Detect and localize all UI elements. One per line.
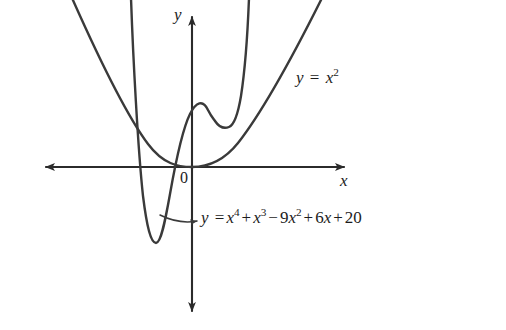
- quartic-term-3-exponent: 2: [296, 206, 302, 218]
- quartic-term-3-sign: −: [266, 208, 280, 227]
- quartic-term-1-variable: x: [226, 208, 234, 227]
- function-graph-figure: y x 0 y = x2 y =x4+x3−9x2+6x+20: [0, 0, 506, 330]
- quartic-term-3-variable: x: [288, 208, 296, 227]
- parabola-exponent: 2: [333, 66, 339, 78]
- curve-quartic: [131, 0, 249, 243]
- equation-label-quartic: y =x4+x3−9x2+6x+20: [201, 209, 362, 226]
- quartic-term-2-variable: x: [253, 208, 261, 227]
- quartic-term-5-coefficient: 20: [345, 208, 362, 227]
- graph-canvas: [0, 0, 506, 330]
- quartic-term-2-sign: +: [240, 208, 254, 227]
- quartic-term-4-coefficient: 6: [315, 208, 324, 227]
- quartic-term-5-sign: +: [331, 208, 345, 227]
- quartic-lhs: y: [201, 208, 209, 227]
- parabola-lhs: y: [296, 68, 304, 87]
- y-axis-label: y: [174, 6, 182, 23]
- quartic-term-1-exponent: 4: [234, 206, 240, 218]
- quartic-term-4-sign: +: [302, 208, 316, 227]
- origin-label: 0: [180, 170, 188, 186]
- quartic-equals: =: [213, 208, 227, 227]
- curve-parabola: [72, 0, 322, 167]
- x-axis-label: x: [340, 172, 348, 189]
- parabola-equals: =: [308, 68, 322, 87]
- equation-label-parabola: y = x2: [296, 69, 339, 86]
